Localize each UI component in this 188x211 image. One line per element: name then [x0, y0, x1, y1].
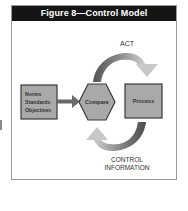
process-node: Process	[125, 84, 162, 118]
compare-node: Compare	[79, 84, 115, 120]
compare-label: Compare	[85, 99, 109, 105]
control-label-line1: CONTROL	[111, 156, 143, 163]
control-information-arrow	[86, 122, 146, 151]
inputs-label-norms: Norms	[25, 91, 42, 97]
inputs-label-objectives: Objectives	[25, 107, 51, 113]
act-label: ACT	[120, 40, 135, 47]
inputs-label-standards: Standards	[25, 99, 50, 105]
process-label: Process	[133, 98, 154, 104]
act-arrow	[93, 53, 158, 82]
inputs-node: Norms Standards Objectives	[21, 85, 57, 119]
inputs-to-compare-arrow	[57, 95, 80, 108]
control-label-line2: INFORMATION	[104, 164, 149, 171]
control-model-diagram: ACT CONTROL INFORMATION Norms Standards …	[0, 0, 188, 211]
